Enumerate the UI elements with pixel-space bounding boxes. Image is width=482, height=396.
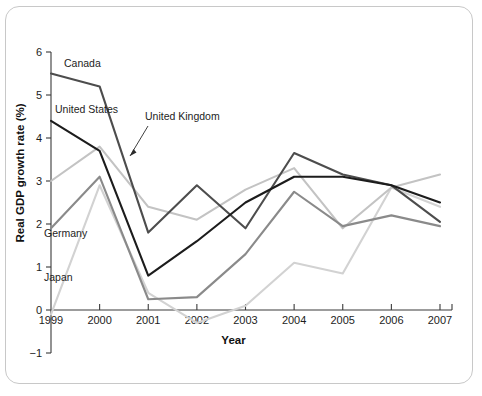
y-axis-tick-label: 5 <box>36 89 42 101</box>
y-axis-tick-label: 6 <box>36 46 42 58</box>
x-axis-title: Year <box>221 334 246 346</box>
y-axis-tick-label: 4 <box>36 132 42 144</box>
x-axis-tick-label: 2007 <box>428 314 452 326</box>
x-axis-tick-label: 2005 <box>331 314 355 326</box>
y-axis-tick-label: 2 <box>36 218 42 230</box>
series-line-united-kingdom <box>51 147 440 229</box>
y-axis-tick-label: −1 <box>29 347 42 359</box>
x-axis-tick-label: 2001 <box>136 314 160 326</box>
figure-root: −101234561999200020012002200320042005200… <box>0 0 482 396</box>
x-axis-tick-label: 2006 <box>379 314 403 326</box>
series-label-japan: Japan <box>44 271 73 283</box>
annotation-arrowhead-icon <box>130 149 137 156</box>
x-axis-tick-label: 2003 <box>233 314 257 326</box>
series-labels-layer: CanadaUnited StatesUnited KingdomGermany… <box>44 57 220 283</box>
series-label-germany: Germany <box>44 227 88 239</box>
series-label-united-states: United States <box>55 103 118 115</box>
gdp-growth-line-chart: −101234561999200020012002200320042005200… <box>0 0 482 396</box>
x-axis-tick-label: 1999 <box>39 314 63 326</box>
y-axis-title: Real GDP growth rate (%) <box>14 103 26 242</box>
series-line-united-states <box>51 121 440 276</box>
x-axis-tick-label: 2000 <box>87 314 111 326</box>
series-label-united-kingdom: United Kingdom <box>145 110 220 122</box>
x-axis-tick-label: 2004 <box>282 314 306 326</box>
series-label-canada: Canada <box>64 57 101 69</box>
y-axis-tick-label: 1 <box>36 261 42 273</box>
y-axis-tick-label: 3 <box>36 175 42 187</box>
